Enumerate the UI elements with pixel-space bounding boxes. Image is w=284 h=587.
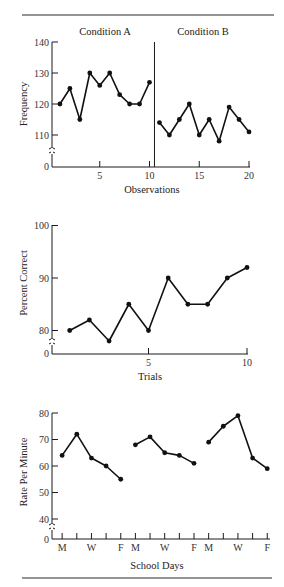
data-point [265,466,270,471]
data-point [118,477,123,482]
axes: 08090100510 [34,220,252,368]
y-tick-label: 120 [34,99,49,110]
x-tick-label: 5 [97,170,102,181]
data-point [217,139,222,144]
y-tick-label: 60 [39,461,49,472]
data-point [197,133,202,138]
data-point [67,328,72,333]
y-tick-label: 80 [39,325,49,336]
y-tick-label: 50 [39,487,49,498]
y-tick-label: 100 [34,220,49,231]
y-tick-label: 90 [39,273,49,284]
data-point [126,302,131,307]
data-line [159,104,249,141]
y-tick-label: 110 [34,130,49,141]
data-point [87,318,92,323]
data-point [206,440,211,445]
x-tick-label: W [87,542,97,553]
data-point [107,71,112,76]
data-point [177,453,182,458]
chart-percent-correct-by-trial: Percent Correct Trials 08090100510 [18,220,252,382]
data-point [104,464,109,469]
phase-label-condition-a: Condition A [79,26,131,37]
data-point [177,117,182,122]
data-point [225,276,230,281]
x-tick-label: F [118,542,124,553]
data-point [89,456,94,461]
y-tick-label: 0 [44,534,49,545]
data-point [146,328,151,333]
y-tick-label: 140 [34,37,49,48]
data-point [186,302,191,307]
data-point [250,456,255,461]
data-point [187,102,192,107]
data-line [70,268,247,342]
data-point [77,117,82,122]
data-point [58,102,63,107]
y-axis-title: Frequency [18,81,29,126]
data-point [74,432,79,437]
data-point [133,442,138,447]
x-tick-label: 10 [242,357,252,368]
x-tick-label: F [264,542,270,553]
figure-canvas: Condition A Condition B Frequency Observ… [0,0,284,587]
data-point [68,86,73,91]
x-tick-label: 20 [244,170,254,181]
data-series [60,413,270,481]
data-point [166,276,171,281]
data-point [148,434,153,439]
x-tick-label: W [233,542,243,553]
x-tick-label: 5 [146,357,151,368]
y-tick-label: 40 [39,514,49,525]
data-point [167,133,172,138]
y-tick-label: 130 [34,68,49,79]
y-tick-label: 0 [44,161,49,172]
data-point [245,265,250,270]
data-point [221,424,226,429]
chart-frequency-by-observation: Condition A Condition B Frequency Observ… [18,26,254,195]
chart-rate-per-minute-by-school-day: Rate Per Minute School Days 04050607080M… [18,408,270,572]
data-point [192,461,197,466]
y-axis-title: Percent Correct [18,250,29,316]
data-line [209,416,268,469]
y-tick-label: 70 [39,434,49,445]
data-point [117,92,122,97]
x-tick-label: M [204,542,213,553]
x-tick-label: F [191,542,197,553]
data-point [205,302,210,307]
data-point [162,450,167,455]
data-point [247,130,252,135]
data-point [157,120,162,125]
x-tick-label: M [58,542,67,553]
axes: 04050607080MWFMWFMWF [39,408,270,554]
data-point [237,117,242,122]
x-tick-label: 10 [145,170,155,181]
data-line [60,73,150,120]
x-tick-label: 15 [194,170,204,181]
x-tick-label: M [131,542,140,553]
data-point [97,83,102,88]
y-tick-label: 0 [44,348,49,359]
data-line [135,437,194,464]
axes: 01101201301405101520 [34,37,254,182]
data-point [147,80,152,85]
data-point [127,102,132,107]
y-axis-title: Rate Per Minute [18,437,29,506]
data-point [87,71,92,76]
data-point [137,102,142,107]
data-point [207,117,212,122]
x-axis-title: Trials [138,371,162,382]
phase-label-condition-b: Condition B [177,26,229,37]
data-point [227,105,232,110]
data-point [107,339,112,344]
data-series [67,265,249,343]
data-point [236,413,241,418]
x-axis-title: Observations [124,184,179,195]
data-point [60,453,65,458]
y-tick-label: 80 [39,408,49,419]
x-tick-label: W [160,542,170,553]
x-axis-title: School Days [130,560,183,571]
